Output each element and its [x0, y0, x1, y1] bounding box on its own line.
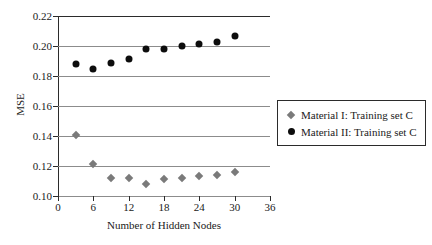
data-point: [178, 43, 185, 50]
data-point: [213, 170, 221, 178]
data-point: [230, 168, 238, 176]
data-point: [124, 174, 132, 182]
y-axis-tick: [53, 136, 58, 137]
plot-area: [58, 16, 270, 196]
x-axis-tick-label: 0: [55, 202, 61, 213]
data-point: [196, 41, 203, 48]
y-axis-tick-label: 0.20: [33, 41, 52, 52]
data-point: [125, 56, 132, 63]
data-point: [142, 180, 150, 188]
x-axis-tick-label: 24: [194, 202, 205, 213]
data-point: [177, 173, 185, 181]
data-point: [72, 61, 79, 68]
scatter-chart-figure: 0.100.120.140.160.180.200.22 MSE 0612182…: [0, 0, 432, 245]
y-axis-tick-label: 0.14: [33, 131, 52, 142]
marker-shape: [287, 110, 295, 118]
data-point: [71, 130, 79, 138]
x-axis-tick-label: 30: [229, 202, 240, 213]
x-axis-tick-label: 6: [91, 202, 97, 213]
data-point: [161, 46, 168, 53]
gridline: [58, 76, 270, 77]
diamond-marker-icon: [284, 112, 298, 118]
y-axis-tick: [53, 16, 58, 17]
chart-legend: Material I: Training set CMaterial II: T…: [277, 100, 426, 146]
data-point: [143, 46, 150, 53]
legend-item: Material I: Training set C: [284, 106, 417, 123]
gridline: [58, 136, 270, 137]
data-point: [160, 175, 168, 183]
y-axis-tick: [53, 76, 58, 77]
y-axis-tick-label: 0.10: [33, 191, 52, 202]
legend-label: Material II: Training set C: [298, 126, 417, 138]
marker-shape: [288, 128, 295, 135]
x-axis-tick-label: 36: [265, 202, 276, 213]
gridline: [58, 166, 270, 167]
gridline: [58, 106, 270, 107]
y-axis-tick-label: 0.22: [33, 11, 52, 22]
data-point: [195, 172, 203, 180]
x-axis-tick-labels: 061218243036: [58, 202, 270, 216]
legend-label: Material I: Training set C: [298, 109, 413, 121]
gridline: [58, 16, 270, 17]
data-point: [214, 38, 221, 45]
y-axis-title: MSE: [14, 75, 27, 135]
x-axis-tick-label: 12: [123, 202, 134, 213]
data-point: [108, 59, 115, 66]
x-axis-title: Number of Hidden Nodes: [58, 219, 270, 232]
y-axis-tick: [53, 106, 58, 107]
x-axis-tick-label: 18: [159, 202, 170, 213]
data-point: [231, 32, 238, 39]
data-point: [90, 65, 97, 72]
y-axis-tick: [53, 166, 58, 167]
y-axis-tick: [53, 46, 58, 47]
y-axis-tick-label: 0.18: [33, 71, 52, 82]
y-axis-tick-label: 0.16: [33, 101, 52, 112]
circle-marker-icon: [284, 128, 298, 135]
data-point: [107, 173, 115, 181]
y-axis-tick-label: 0.12: [33, 161, 52, 172]
legend-item: Material II: Training set C: [284, 123, 417, 140]
